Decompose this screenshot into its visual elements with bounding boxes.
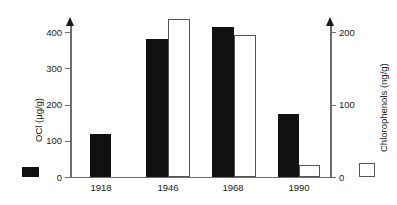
x-label-1990: 1990 — [279, 182, 319, 193]
left-tick-300 — [65, 68, 70, 69]
left-axis-arrow-icon — [66, 17, 74, 26]
left-tick-label-400: 400 — [32, 28, 62, 38]
left-axis-line — [70, 26, 72, 177]
bar-chlorophenols-1990 — [299, 165, 320, 177]
bar-ocl-1946 — [146, 39, 168, 177]
bar-ocl-1918 — [90, 134, 111, 178]
left-tick-200 — [65, 105, 70, 106]
right-tick-100 — [331, 105, 336, 106]
right-axis-line — [330, 26, 332, 177]
legend-swatch-ocl — [22, 167, 39, 177]
right-axis-title: Chlorophenols (ng/g) — [378, 63, 389, 152]
legend-swatch-chlorophenols — [359, 163, 375, 177]
chart-figure: 0 100 200 300 400 0 100 200 OCl (µg/g) C… — [0, 0, 397, 205]
x-label-1968: 1968 — [213, 182, 253, 193]
x-label-1918: 1918 — [81, 182, 121, 193]
right-tick-label-200: 200 — [339, 28, 369, 38]
left-tick-100 — [65, 141, 70, 142]
left-tick-label-300: 300 — [32, 64, 62, 74]
right-tick-200 — [331, 32, 336, 33]
left-tick-400 — [65, 32, 70, 33]
bar-chlorophenols-1946 — [168, 19, 190, 177]
right-tick-0 — [331, 177, 336, 178]
right-axis-arrow-icon — [326, 17, 334, 26]
x-axis-line — [70, 177, 331, 178]
left-axis-title: OCl (µg/g) — [33, 98, 44, 142]
bar-ocl-1968 — [212, 27, 234, 177]
right-tick-label-100: 100 — [339, 100, 369, 110]
x-label-1946: 1946 — [148, 182, 188, 193]
left-tick-0 — [65, 177, 70, 178]
bar-chlorophenols-1968 — [234, 35, 256, 177]
bar-ocl-1990 — [278, 114, 299, 177]
